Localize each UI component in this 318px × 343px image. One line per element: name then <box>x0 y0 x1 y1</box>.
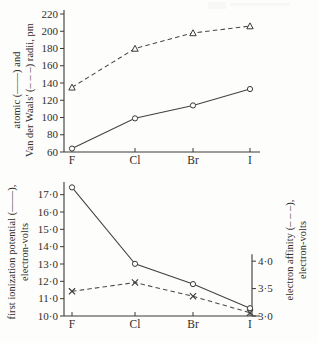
x-axis-tick-label: F <box>69 154 75 166</box>
y2-axis-tick-label: 4·0 <box>258 255 273 267</box>
x-axis-tick-label: Br <box>187 154 199 166</box>
y-axis-tick-label: 17·0 <box>38 188 59 200</box>
y-axis-title-line2: electron-volts <box>19 223 30 281</box>
x-axis-tick-label: I <box>248 154 252 166</box>
series-line-circle <box>72 89 250 149</box>
energy-chart-svg: 10·011·012·013·014·015·016·017·0FClBrI3·… <box>0 172 318 343</box>
y2-axis-tick-label: 3·5 <box>258 282 273 294</box>
series-line-cross <box>72 283 250 313</box>
y2-axis-title-line2: electron-volts <box>297 221 308 279</box>
data-point-marker <box>247 86 252 91</box>
y-axis-title-line1: first ionization potential (——), <box>6 185 18 320</box>
data-point-marker <box>132 45 138 51</box>
series-line-triangle <box>72 26 250 87</box>
y-axis-title-line1: atomic (——) and <box>11 51 23 129</box>
y-axis-tick-label: 60 <box>47 146 59 158</box>
y-axis-title-line2: Van der Waals' (– – –) radii, pm <box>24 23 36 157</box>
y-axis-tick-label: 11·0 <box>38 292 58 304</box>
y-axis-tick-label: 200 <box>42 25 59 37</box>
y-axis-tick-label: 100 <box>42 111 59 123</box>
radii-chart-panel: 6080100120140160180200220FClBrIatomic (—… <box>0 0 318 172</box>
y-axis-tick-label: 120 <box>42 94 59 106</box>
x-axis-tick-label: F <box>69 318 75 330</box>
data-point-marker <box>132 261 137 266</box>
data-point-marker <box>247 306 252 311</box>
data-point-marker <box>190 282 195 287</box>
data-point-marker <box>132 116 137 121</box>
halogen-properties-figure: 6080100120140160180200220FClBrIatomic (—… <box>0 0 318 343</box>
x-axis-tick-label: Cl <box>130 154 141 166</box>
x-axis-tick-label: I <box>248 318 252 330</box>
energy-chart-panel: 10·011·012·013·014·015·016·017·0FClBrI3·… <box>0 172 318 343</box>
y-axis-tick-label: 10·0 <box>38 310 59 322</box>
y-axis-tick-label: 16·0 <box>38 206 59 218</box>
y-axis-tick-label: 220 <box>42 8 59 20</box>
y-axis-tick-label: 180 <box>42 42 59 54</box>
y-axis-tick-label: 12·0 <box>38 275 59 287</box>
x-axis-tick-label: Cl <box>130 318 141 330</box>
data-point-marker <box>69 84 75 90</box>
series-line-circle <box>72 187 250 308</box>
y-axis-tick-label: 15·0 <box>38 223 59 235</box>
data-point-marker <box>69 146 74 151</box>
data-point-marker <box>190 293 196 299</box>
data-point-marker <box>190 103 195 108</box>
data-point-marker <box>69 185 74 190</box>
radii-chart-svg: 6080100120140160180200220FClBrIatomic (—… <box>0 0 318 172</box>
x-axis-tick-label: Br <box>187 318 199 330</box>
y-axis-tick-label: 80 <box>47 128 59 140</box>
y-axis-tick-label: 14·0 <box>38 240 59 252</box>
y-axis-tick-label: 13·0 <box>38 258 59 270</box>
y2-axis-title-line1: electron affinity (– – –), <box>284 199 296 300</box>
y-axis-tick-label: 160 <box>42 59 59 71</box>
y-axis-tick-label: 140 <box>42 77 59 89</box>
data-point-marker <box>190 30 196 36</box>
y2-axis-tick-label: 3·0 <box>258 310 273 322</box>
